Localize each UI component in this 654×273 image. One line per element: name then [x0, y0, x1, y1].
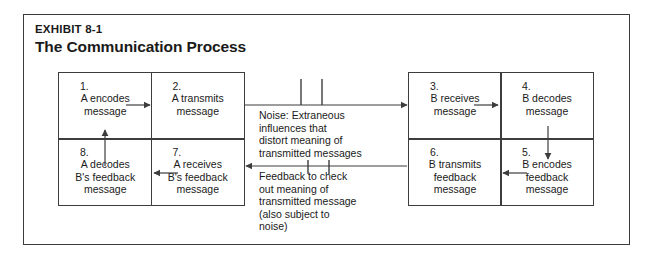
- step-box-7: 7. A receives B's feedback message: [152, 139, 245, 205]
- exhibit-label: EXHIBIT 8-1: [35, 22, 246, 36]
- exhibit-heading: EXHIBIT 8-1 The Communication Process: [35, 22, 246, 56]
- step-box-8: 8. A decodes B's feedback message: [59, 139, 152, 205]
- exhibit-figure: EXHIBIT 8-1 The Communication Process 1.…: [0, 0, 654, 273]
- step-box-3: 3. B receives message: [409, 73, 501, 139]
- sender-box-grid: 1. A encodes message 2. A transmits mess…: [58, 72, 245, 206]
- step-number: 3.: [414, 80, 496, 92]
- step-number: 2.: [157, 80, 240, 92]
- step-text: B transmits feedback message: [414, 158, 496, 196]
- step-box-1: 1. A encodes message: [59, 73, 152, 139]
- step-number: 1.: [64, 80, 147, 92]
- step-box-4: 4. B decodes message: [501, 73, 593, 139]
- step-text: B receives message: [414, 92, 496, 117]
- step-number: 8.: [64, 146, 147, 158]
- step-text: A transmits message: [157, 92, 240, 117]
- step-box-6: 6. B transmits feedback message: [409, 139, 501, 205]
- step-text: B decodes message: [506, 92, 588, 117]
- feedback-label: Feedback to check out meaning of transmi…: [259, 170, 356, 233]
- step-box-2: 2. A transmits message: [152, 73, 245, 139]
- step-number: 6.: [414, 146, 496, 158]
- step-number: 5.: [506, 146, 588, 158]
- step-text: B encodes feedback message: [506, 158, 588, 196]
- step-box-5: 5. B encodes feedback message: [501, 139, 593, 205]
- noise-label: Noise: Extraneous influences that distor…: [259, 109, 362, 159]
- step-number: 4.: [506, 80, 588, 92]
- step-text: A receives B's feedback message: [157, 158, 240, 196]
- receiver-box-grid: 3. B receives message 4. B decodes messa…: [408, 72, 594, 206]
- exhibit-title: The Communication Process: [35, 37, 246, 56]
- step-number: 7.: [157, 146, 240, 158]
- step-text: A encodes message: [64, 92, 147, 117]
- step-text: A decodes B's feedback message: [64, 158, 147, 196]
